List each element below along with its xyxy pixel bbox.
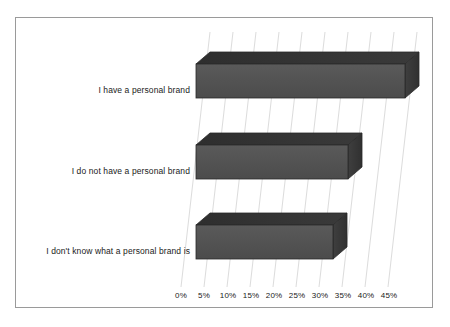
category-label-1: I have a personal brand [20, 85, 190, 95]
bar-front-face-3 [196, 225, 333, 259]
bar-front-face-2 [196, 145, 348, 179]
category-label-2: I do not have a personal brand [20, 166, 190, 176]
bar-top-face-1 [196, 52, 419, 64]
bar-3d-category-3 [196, 213, 347, 259]
x-tick-label-1: 5% [193, 291, 215, 300]
bar-3d-category-2 [196, 133, 362, 179]
x-tick-label-0: 0% [170, 291, 192, 300]
chart-container: I have a personal brand I do not have a … [0, 0, 450, 327]
bar-3d-category-1 [196, 52, 419, 98]
x-tick-label-9: 45% [376, 291, 402, 300]
chart-plot-area [0, 0, 450, 327]
bar-top-face-2 [196, 133, 362, 145]
bar-front-face-1 [196, 64, 405, 98]
category-label-3: I don't know what a personal brand is [8, 246, 190, 256]
bar-top-face-3 [196, 213, 347, 225]
